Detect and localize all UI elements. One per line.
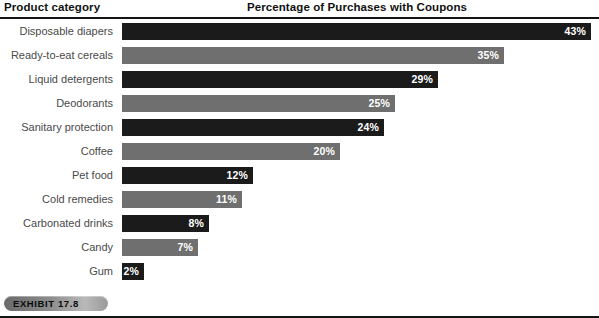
bar-value-label: 12%: [226, 167, 248, 184]
bar-row: Coffee20%: [0, 143, 599, 160]
bar: 35%: [122, 47, 504, 64]
bar-value-label: 7%: [177, 239, 193, 256]
bar-row: Disposable diapers43%: [0, 23, 599, 40]
exhibit-badge: EXHIBIT 17.8: [4, 296, 108, 311]
category-label: Ready-to-eat cereals: [0, 47, 113, 64]
header-divider-rule: [0, 17, 599, 19]
category-label: Liquid detergents: [0, 71, 113, 88]
bar: 29%: [122, 71, 438, 88]
exhibit-figure: Product category Percentage of Purchases…: [0, 0, 599, 318]
bar-value-label: 43%: [564, 23, 586, 40]
category-label: Pet food: [0, 167, 113, 184]
bar: 11%: [122, 191, 242, 208]
bar-row: Liquid detergents29%: [0, 71, 599, 88]
bar-row: Gum2%: [0, 263, 599, 280]
category-label: Cold remedies: [0, 191, 113, 208]
bar-row: Cold remedies11%: [0, 191, 599, 208]
category-label: Carbonated drinks: [0, 215, 113, 232]
category-label: Disposable diapers: [0, 23, 113, 40]
bar-value-label: 25%: [368, 95, 390, 112]
bar-value-label: 11%: [216, 191, 237, 208]
bar: 12%: [122, 167, 253, 184]
category-label: Deodorants: [0, 95, 113, 112]
bar-row: Ready-to-eat cereals35%: [0, 47, 599, 64]
exhibit-badge-label: EXHIBIT 17.8: [13, 296, 79, 311]
chart-title: Percentage of Purchases with Coupons: [122, 1, 592, 13]
bar-value-label: 20%: [313, 143, 335, 160]
bar-chart-plot-area: Disposable diapers43%Ready-to-eat cereal…: [0, 23, 599, 289]
bar: 43%: [122, 23, 591, 40]
bar-value-label: 2%: [123, 263, 139, 280]
category-label: Coffee: [0, 143, 113, 160]
bar: 25%: [122, 95, 395, 112]
bar-row: Pet food12%: [0, 167, 599, 184]
bar: 7%: [122, 239, 198, 256]
category-label: Candy: [0, 239, 113, 256]
bar-value-label: 24%: [357, 119, 379, 136]
bar: 2%: [122, 263, 144, 280]
category-label: Gum: [0, 263, 113, 280]
bar-row: Candy7%: [0, 239, 599, 256]
bar-value-label: 35%: [477, 47, 499, 64]
bar-row: Sanitary protection24%: [0, 119, 599, 136]
bar: 20%: [122, 143, 340, 160]
bar: 24%: [122, 119, 384, 136]
bar-row: Carbonated drinks8%: [0, 215, 599, 232]
chart-header: Product category Percentage of Purchases…: [0, 0, 599, 17]
bar-row: Deodorants25%: [0, 95, 599, 112]
bar: 8%: [122, 215, 209, 232]
category-label: Sanitary protection: [0, 119, 113, 136]
product-category-header: Product category: [4, 1, 100, 13]
bar-value-label: 29%: [411, 71, 433, 88]
bar-value-label: 8%: [188, 215, 204, 232]
